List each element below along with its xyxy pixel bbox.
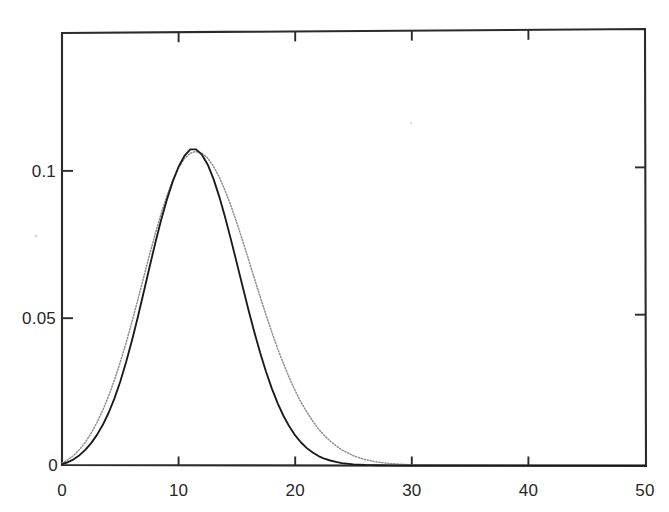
series-dotted-curve xyxy=(62,151,645,465)
x-tick-label-0: 0 xyxy=(57,481,67,500)
x-axis-tick-labels: 01020304050 xyxy=(57,481,654,500)
axis-box-path xyxy=(62,29,646,466)
y-tick-label-0.1: 0.1 xyxy=(32,162,56,181)
scan-artifact-speck xyxy=(35,235,38,238)
distribution-line-chart: 01020304050 0.050.1 0 xyxy=(0,0,669,512)
x-tick-label-30: 30 xyxy=(402,481,421,500)
chart-figure: 01020304050 0.050.1 0 xyxy=(0,0,669,512)
y-axis-ticks-left xyxy=(62,171,73,318)
x-tick-label-10: 10 xyxy=(169,481,188,500)
y-tick-label-0.05: 0.05 xyxy=(22,309,56,328)
scan-artifact-speck xyxy=(410,122,412,124)
axes-frame xyxy=(62,29,646,466)
y-axis-tick-labels: 0.050.1 xyxy=(22,162,56,328)
x-tick-label-50: 50 xyxy=(635,481,654,500)
y-axis-origin-label: 0 xyxy=(48,456,58,475)
x-tick-label-20: 20 xyxy=(286,481,305,500)
x-tick-label-40: 40 xyxy=(519,481,538,500)
series-solid-curve xyxy=(62,149,645,465)
